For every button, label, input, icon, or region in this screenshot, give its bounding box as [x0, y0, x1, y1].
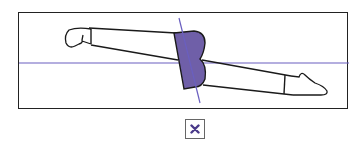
x-mark-button[interactable]: incorrect	[185, 119, 205, 139]
hand-outline	[65, 28, 91, 47]
body-illustration	[19, 13, 349, 110]
right-cuff-line	[284, 75, 285, 94]
x-mark-icon	[190, 124, 200, 134]
foot-outline	[291, 73, 327, 95]
position-diagram: Prone body position diagram with highlig…	[18, 12, 348, 109]
right-limb-outline	[202, 60, 293, 95]
left-limb-outline	[89, 28, 178, 60]
